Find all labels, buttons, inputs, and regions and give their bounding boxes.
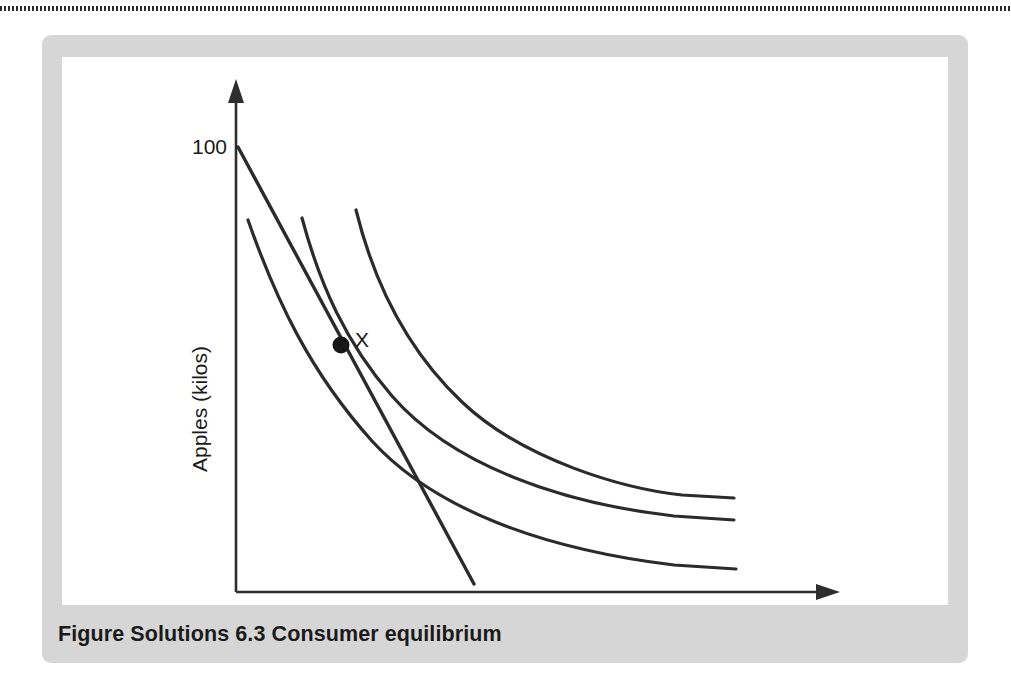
plot-panel: X 100 0 50 Apples (kilos) Oranges (kilos… — [62, 57, 948, 605]
top-dotted-rule — [0, 6, 1011, 11]
x-axis-arrowhead — [816, 584, 840, 600]
x-axis — [236, 584, 840, 600]
y-tick-label-100: 100 — [192, 135, 227, 158]
y-axis-arrowhead — [228, 79, 244, 103]
consumer-equilibrium-chart: X 100 0 50 Apples (kilos) Oranges (kilos… — [62, 57, 948, 605]
figure-card: X 100 0 50 Apples (kilos) Oranges (kilos… — [42, 35, 968, 663]
equilibrium-point-label: X — [355, 328, 369, 351]
y-axis-title: Apples (kilos) — [188, 346, 211, 472]
indifference-curve-i1 — [248, 220, 736, 569]
indifference-curve-i2 — [302, 218, 734, 520]
indifference-curve-i3 — [356, 210, 734, 498]
equilibrium-point-marker — [333, 337, 350, 354]
figure-caption: Figure Solutions 6.3 Consumer equilibriu… — [58, 613, 948, 655]
